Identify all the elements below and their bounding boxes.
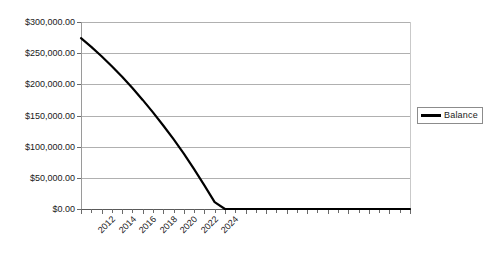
y-axis-tick bbox=[77, 209, 81, 210]
series-line-balance bbox=[81, 38, 410, 209]
y-axis-tick bbox=[77, 53, 81, 54]
y-axis-tick bbox=[77, 84, 81, 85]
y-axis-tick bbox=[77, 22, 81, 23]
series-layer bbox=[0, 0, 495, 258]
legend-label-balance: Balance bbox=[444, 110, 478, 120]
y-axis-tick bbox=[77, 178, 81, 179]
legend-swatch-balance bbox=[421, 114, 441, 117]
chart-legend: Balance bbox=[417, 107, 483, 124]
chart-container: $0.00$50,000.00$100,000.00$150,000.00$20… bbox=[0, 0, 495, 258]
y-axis-tick bbox=[77, 147, 81, 148]
y-axis-tick bbox=[77, 116, 81, 117]
